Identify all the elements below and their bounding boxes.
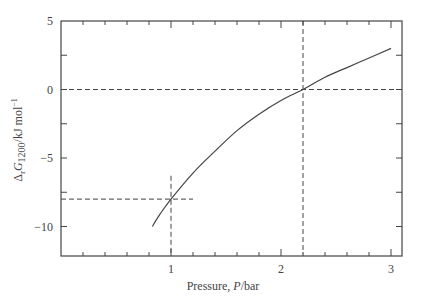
y-axis-title: ΔrG1200/kJ mol−1: [10, 98, 27, 182]
chart: 50−5−10 123 Pressure, P/bar ΔrG1200/kJ m…: [0, 0, 421, 305]
dashed-guide-lines: [61, 21, 402, 254]
y-tick-label: 0: [47, 83, 53, 97]
x-tick-label: 1: [168, 262, 174, 276]
axis-ticks: [61, 21, 402, 256]
y-tick-label: −10: [34, 220, 53, 234]
y-tick-label: −5: [40, 151, 53, 165]
x-axis-title: Pressure, P/bar: [187, 279, 260, 293]
x-tick-labels: 123: [168, 262, 394, 276]
data-curve: [152, 48, 391, 226]
y-tick-labels: 50−5−10: [34, 14, 53, 234]
axes-frame: [61, 21, 402, 256]
x-tick-label: 2: [278, 262, 284, 276]
x-tick-label: 3: [388, 262, 394, 276]
y-tick-label: 5: [47, 14, 53, 28]
